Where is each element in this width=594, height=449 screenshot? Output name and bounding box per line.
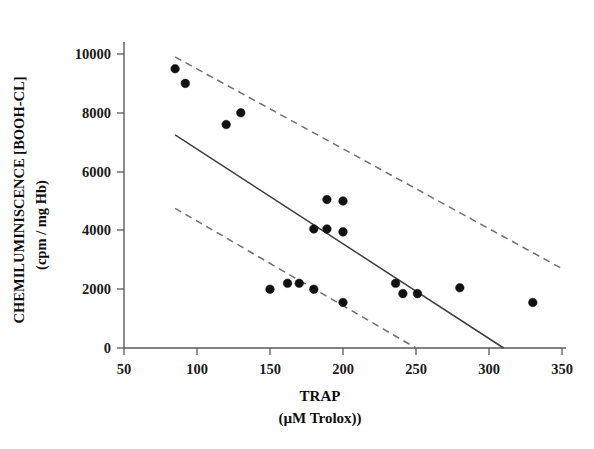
- fit-lines-layer: [175, 57, 562, 348]
- x-tick-label: 300: [478, 361, 500, 377]
- data-point: [323, 225, 332, 234]
- data-point: [529, 298, 538, 307]
- data-point: [222, 120, 231, 129]
- y-tick-label: 0: [104, 340, 111, 356]
- data-points-layer: [171, 64, 537, 306]
- y-tick-label: 6000: [82, 164, 111, 180]
- data-point: [266, 285, 275, 294]
- data-point: [391, 279, 400, 288]
- x-tick-label: 50: [117, 361, 132, 377]
- y-tick-label: 8000: [82, 105, 111, 121]
- data-point: [399, 289, 408, 298]
- data-point: [237, 109, 246, 118]
- x-axis-units: (µM Trolox)): [278, 410, 361, 427]
- x-tick-label: 250: [405, 361, 427, 377]
- data-point: [310, 285, 319, 294]
- y-axis-title: CHEMILUMINISCENCE [BOOH-CL]: [11, 77, 27, 324]
- x-tick-label: 100: [186, 361, 208, 377]
- data-point: [339, 298, 348, 307]
- scatter-plot: CHEMILUMINISCENCE [BOOH-CL] (cpm / mg Hb…: [0, 0, 594, 449]
- y-axis-tick-labels: 10000 8000 6000 4000 2000 0: [75, 46, 111, 356]
- data-point: [283, 279, 292, 288]
- data-point: [339, 228, 348, 237]
- x-axis-ticks: [124, 348, 562, 355]
- y-tick-label: 10000: [75, 46, 111, 62]
- x-axis-title: TRAP: [300, 388, 341, 404]
- x-tick-label: 350: [551, 361, 573, 377]
- data-point: [456, 283, 465, 292]
- data-point: [413, 289, 422, 298]
- data-point: [339, 197, 348, 206]
- y-tick-label: 2000: [82, 281, 111, 297]
- data-point: [310, 225, 319, 234]
- y-tick-label: 4000: [82, 222, 111, 238]
- x-tick-label: 200: [332, 361, 354, 377]
- lower-confidence-band: [175, 208, 416, 348]
- data-point: [295, 279, 304, 288]
- data-point: [171, 64, 180, 73]
- regression-line: [175, 135, 504, 348]
- x-tick-label: 150: [259, 361, 281, 377]
- y-axis-ticks: [117, 54, 124, 348]
- x-axis-tick-labels: 50 100 150 200 250 300 350: [117, 361, 573, 377]
- y-axis-units: (cpm / mg Hb): [33, 180, 50, 270]
- upper-confidence-band: [175, 57, 562, 269]
- chart-figure: CHEMILUMINISCENCE [BOOH-CL] (cpm / mg Hb…: [0, 0, 594, 449]
- data-point: [323, 195, 332, 204]
- data-point: [181, 79, 190, 88]
